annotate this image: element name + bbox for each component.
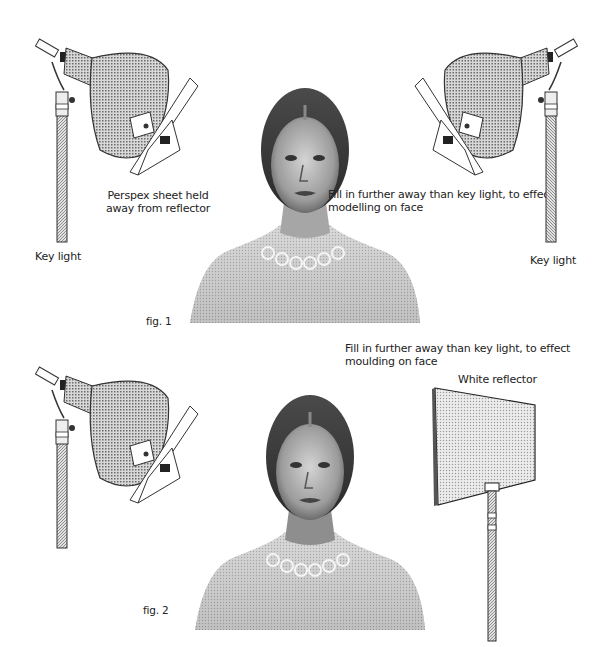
key-light-lamp-right	[383, 0, 613, 250]
fill-label-fig2: Fill in further away than key light, to …	[345, 342, 570, 368]
white-reflector-board	[430, 385, 550, 645]
figure-caption-1: fig. 1	[146, 315, 171, 328]
portrait-subject	[195, 382, 435, 632]
figure-1: Perspex sheet held away from reflector K…	[0, 0, 613, 330]
key-light-label-right: Key light	[530, 254, 576, 267]
figure-caption-2: fig. 2	[143, 604, 168, 617]
key-light-label-left: Key light	[35, 250, 81, 263]
figure-2: Fill in further away than key light, to …	[0, 330, 613, 647]
